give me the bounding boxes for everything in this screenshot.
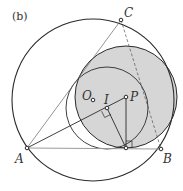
figure-tag: (b) — [12, 10, 28, 23]
label-A: A — [14, 152, 24, 166]
label-P: P — [129, 90, 139, 104]
point-A — [25, 146, 29, 150]
label-B: B — [162, 152, 172, 166]
label-O: O — [82, 89, 92, 103]
point-B — [159, 147, 163, 151]
label-C: C — [124, 6, 133, 20]
point-C — [119, 18, 123, 22]
point-P — [124, 95, 128, 99]
side-AB — [27, 148, 161, 149]
point-T — [124, 146, 128, 150]
label-I: I — [103, 93, 109, 107]
diagram-canvas: (b) C A B O I P — [0, 0, 183, 191]
geometry-figure: (b) C A B O I P — [0, 0, 183, 191]
